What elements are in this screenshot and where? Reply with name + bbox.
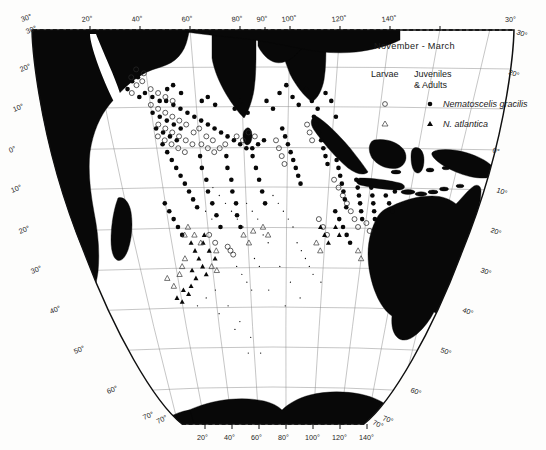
corner-label-top-right: 30°: [505, 15, 516, 24]
point-tiny-dot: [212, 187, 213, 188]
point-filled-circle: [371, 201, 376, 206]
point-tiny-dot: [251, 289, 252, 290]
point-filled-circle: [323, 154, 328, 159]
distribution-map-figure: 20°40°60°80°90°100°120°140°20°40°60°80°1…: [0, 0, 546, 450]
point-filled-circle: [260, 189, 265, 194]
point-filled-circle: [284, 83, 289, 88]
point-filled-circle: [288, 150, 293, 155]
point-tiny-dot: [312, 274, 313, 275]
point-filled-circle: [319, 138, 324, 143]
point-filled-circle: [143, 91, 148, 96]
right-latitude-label-4: 20°: [489, 225, 502, 237]
point-filled-circle: [125, 87, 130, 92]
point-tiny-dot: [254, 258, 255, 259]
legend-species-n-atlantica: N. atlantica: [443, 119, 488, 129]
point-tiny-dot: [197, 305, 198, 306]
point-tiny-dot: [215, 289, 216, 290]
point-filled-circle: [210, 201, 215, 206]
legend-species-nematoscelis-gracilis: Nematoscelis gracilis: [443, 99, 528, 109]
point-filled-circle: [277, 91, 282, 96]
point-tiny-dot: [219, 195, 220, 196]
top-longitude-label-2: 60°: [181, 14, 193, 24]
top-longitude-label-4: 90°: [256, 14, 268, 24]
point-tiny-dot: [279, 266, 280, 267]
point-filled-circle: [358, 201, 363, 206]
point-filled-circle: [235, 213, 240, 218]
point-filled-circle: [264, 99, 269, 104]
point-filled-circle: [199, 99, 204, 104]
point-filled-circle: [213, 103, 218, 108]
point-filled-circle: [341, 225, 346, 230]
point-filled-circle: [280, 126, 285, 131]
point-filled-circle: [290, 95, 295, 100]
point-tiny-dot: [241, 274, 242, 275]
right-latitude-label-5: 30°: [479, 265, 492, 277]
point-tiny-dot: [242, 226, 243, 227]
point-filled-circle: [198, 154, 203, 159]
point-filled-circle: [355, 185, 360, 190]
point-filled-circle: [333, 209, 338, 214]
point-tiny-dot: [292, 226, 293, 227]
top-longitude-label-1: 40°: [131, 14, 143, 24]
point-filled-circle: [199, 118, 204, 123]
point-filled-circle: [250, 146, 255, 151]
point-filled-circle: [174, 166, 179, 171]
point-filled-circle: [310, 99, 315, 104]
point-filled-circle: [229, 177, 234, 182]
bottom-longitude-label-1: 40°: [224, 433, 235, 442]
top-longitude-label-5: 100°: [281, 13, 297, 24]
point-filled-circle: [334, 114, 339, 119]
point-filled-circle: [234, 201, 239, 206]
right-latitude-label-6: 40°: [461, 305, 474, 317]
point-filled-circle: [250, 154, 255, 159]
point-filled-circle: [321, 146, 326, 151]
point-filled-circle: [219, 130, 224, 135]
point-filled-circle: [298, 181, 303, 186]
point-filled-circle: [372, 209, 377, 214]
point-filled-circle: [238, 99, 243, 104]
point-filled-circle: [348, 240, 353, 245]
point-tiny-dot: [263, 234, 264, 235]
point-filled-circle: [369, 185, 374, 190]
point-filled-circle: [179, 91, 184, 96]
bottom-longitude-label-3: 80°: [278, 433, 289, 442]
point-filled-circle: [165, 118, 170, 123]
point-tiny-dot: [260, 352, 261, 353]
point-filled-circle: [230, 189, 235, 194]
right-latitude-label-3: 10°: [495, 185, 508, 197]
left-latitude-label-7: 40°: [48, 303, 62, 315]
point-filled-circle: [263, 201, 268, 206]
point-filled-circle: [344, 233, 349, 238]
point-filled-circle: [185, 110, 190, 115]
point-filled-circle: [200, 166, 205, 171]
top-longitude-label-0: 20°: [81, 14, 93, 24]
point-filled-circle: [283, 134, 288, 139]
point-filled-circle: [317, 130, 322, 135]
point-tiny-dot: [285, 305, 286, 306]
point-filled-circle: [178, 126, 183, 131]
point-filled-circle: [232, 107, 237, 112]
legend-column-juveniles-line1: Juveniles: [414, 69, 452, 79]
point-filled-circle: [389, 181, 394, 186]
point-tiny-dot: [278, 203, 279, 204]
point-tiny-dot: [257, 218, 258, 219]
corner-label-bottom-left: 70°: [155, 413, 169, 426]
point-filled-circle: [360, 217, 365, 222]
point-filled-circle: [296, 103, 301, 108]
bottom-longitude-label-4: 100°: [305, 433, 320, 442]
point-filled-circle: [244, 146, 249, 151]
point-tiny-dot: [225, 203, 226, 204]
point-tiny-dot: [320, 282, 321, 283]
point-filled-circle: [373, 225, 378, 230]
right-latitude-label-0: 30°: [515, 27, 528, 39]
point-filled-circle: [176, 225, 181, 230]
corner-label-top-left: 30°: [20, 12, 33, 24]
point-tiny-dot: [237, 218, 238, 219]
legend-column-larvae: Larvae: [371, 69, 399, 79]
point-tiny-dot: [305, 258, 306, 259]
point-filled-circle: [172, 122, 177, 127]
point-tiny-dot: [248, 352, 249, 353]
left-latitude-label-9: 60°: [105, 383, 119, 395]
left-latitude-label-5: 20°: [17, 223, 31, 235]
point-filled-circle: [312, 114, 317, 119]
